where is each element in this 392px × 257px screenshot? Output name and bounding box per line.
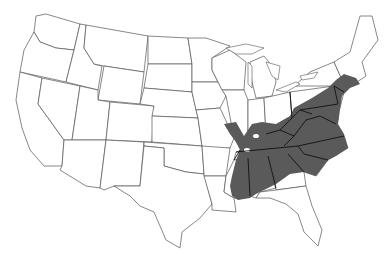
state-arizona	[60, 140, 106, 188]
state-arkansas	[202, 146, 230, 176]
state-new-mexico	[100, 140, 144, 190]
state-new-england	[334, 16, 378, 84]
state-south-dakota	[144, 64, 192, 92]
us-range-map	[0, 0, 392, 257]
state-michigan	[250, 56, 276, 98]
state-colorado	[106, 102, 154, 142]
state-kansas	[152, 116, 202, 146]
state-florida	[256, 186, 322, 246]
range-gap	[253, 134, 259, 138]
lake-erie	[276, 82, 300, 92]
lake-michigan	[248, 62, 252, 88]
state-wyoming	[98, 66, 144, 104]
state-north-dakota	[148, 36, 192, 64]
